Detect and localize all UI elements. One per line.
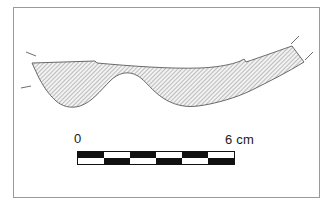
break-mark-right-lower [305,52,313,60]
break-mark-left-lower [21,86,31,88]
artifact-drawing [0,0,332,211]
scale-bar-bottom-row [78,158,234,164]
scale-bar-segment [208,158,234,164]
break-mark-right-upper [291,36,299,44]
artifact-profile-shape [32,46,304,107]
scale-label-max: 6 cm [225,133,254,146]
figure-root: 0 6 cm [0,0,332,211]
scale-bar-segment [182,158,208,164]
scale-bar-segment [104,158,130,164]
scale-label-zero: 0 [74,132,81,145]
scale-bar-segment [130,158,156,164]
break-mark-left-upper [26,52,36,56]
scale-bar [77,151,235,165]
scale-bar-segment [156,158,182,164]
scale-bar-segment [78,158,104,164]
